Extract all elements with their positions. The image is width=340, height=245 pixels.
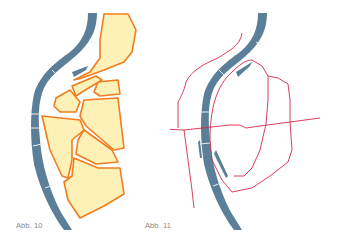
figure-abb-11: Abb. 11 (170, 0, 340, 245)
parcel-map (0, 0, 170, 245)
parcel-mid-right (94, 80, 120, 96)
caption-abb-10: Abb. 10 (16, 221, 43, 230)
figure-abb-10: Abb. 10 (0, 0, 170, 245)
road-inner-north (266, 76, 268, 124)
road-map (170, 0, 340, 245)
roads (170, 33, 320, 208)
road-inner-diagonal (234, 124, 266, 176)
road-north-south-west (184, 130, 194, 208)
road-east-west (170, 118, 320, 130)
river (198, 13, 267, 230)
parcels (42, 14, 136, 218)
caption-abb-11: Abb. 11 (145, 221, 171, 230)
parcel-south (64, 158, 124, 218)
road-west-river (178, 33, 242, 128)
